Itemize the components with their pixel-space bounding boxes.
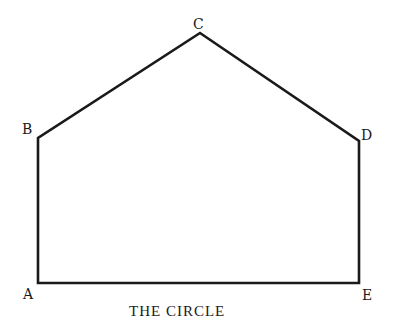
vertex-label-c: C bbox=[193, 16, 204, 32]
pentagon-shape bbox=[38, 33, 359, 283]
vertex-label-d: D bbox=[361, 127, 372, 143]
vertex-label-e: E bbox=[362, 287, 372, 303]
vertex-label-b: B bbox=[22, 121, 32, 137]
pentagon-diagram: A B C D E THE CIRCLE bbox=[0, 0, 395, 332]
diagram-caption: THE CIRCLE bbox=[129, 303, 225, 319]
vertex-label-a: A bbox=[22, 286, 34, 302]
